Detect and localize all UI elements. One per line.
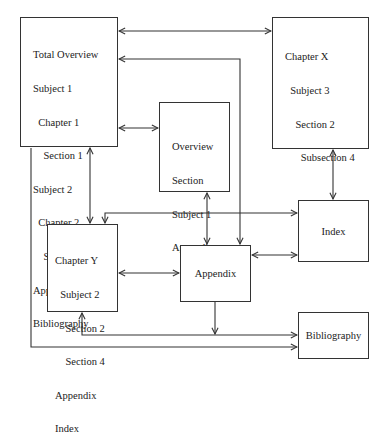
text-line: Subject 1: [33, 83, 117, 94]
node-chapter-x: Chapter X Subject 3 Section 2 Subsection…: [272, 17, 369, 149]
node-index: Index: [298, 200, 369, 262]
node-chapter-y: Chapter Y Subject 2 Section 2 Section 4 …: [47, 224, 118, 312]
node-chapter-y-text: Chapter Y Subject 2 Section 2 Section 4 …: [55, 233, 117, 436]
node-overview-section: Overview Section Subject 1 Appendix: [159, 102, 230, 192]
node-bibliography-label: Bibliography: [306, 330, 361, 341]
text-line: Index: [55, 423, 117, 434]
text-line: Chapter X: [285, 51, 368, 62]
text-line: Total Overview: [33, 49, 117, 60]
text-line: Section 2: [285, 119, 368, 130]
text-line: Subject 2: [33, 184, 117, 195]
text-line: Overview: [172, 141, 229, 152]
text-line: Section: [172, 175, 229, 186]
text-line: Section 4: [55, 356, 117, 367]
text-line: Section 1: [33, 150, 117, 161]
text-line: Section 2: [55, 323, 117, 334]
node-bibliography: Bibliography: [298, 312, 369, 359]
text-line: Subject 2: [55, 289, 117, 300]
text-line: Subsection 4: [285, 152, 368, 163]
text-line: Chapter Y: [55, 255, 117, 266]
node-appendix-label: Appendix: [195, 268, 236, 279]
text-line: Chapter 1: [33, 117, 117, 128]
text-line: Appendix: [55, 390, 117, 401]
text-line: Subject 3: [285, 85, 368, 96]
text-line: Subject 1: [172, 209, 229, 220]
node-total-overview: Total Overview Subject 1 Chapter 1 Secti…: [20, 17, 118, 147]
node-index-label: Index: [322, 226, 346, 237]
node-chapter-x-text: Chapter X Subject 3 Section 2 Subsection…: [285, 29, 368, 186]
node-appendix: Appendix: [180, 245, 251, 302]
